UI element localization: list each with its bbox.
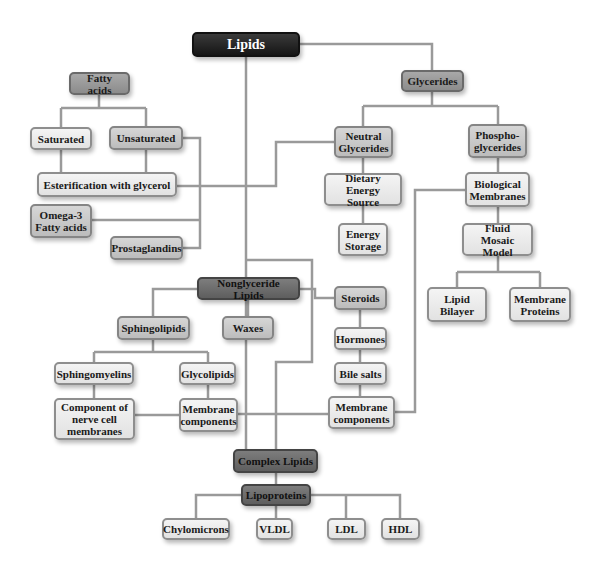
node-omega-3: Omega-3 Fatty acids — [30, 204, 92, 238]
node-saturated: Saturated — [30, 127, 92, 150]
node-hdl: HDL — [381, 518, 420, 540]
node-lipoproteins: Lipoproteins — [241, 484, 311, 506]
node-biological-membranes: Biological Membranes — [465, 172, 530, 207]
node-lipid-bilayer: Lipid Bilayer — [427, 287, 487, 322]
node-steroids: Steroids — [334, 286, 387, 310]
node-vldl: VLDL — [256, 518, 293, 540]
node-glycerides: Glycerides — [401, 70, 464, 92]
node-lipids: Lipids — [192, 32, 300, 57]
node-sphingolipids: Sphingolipids — [117, 316, 190, 340]
node-neutral-glycerides: Neutral Glycerides — [334, 126, 393, 158]
node-glycolipids: Glycolipids — [179, 362, 236, 385]
node-nerve-cell-component: Component of nerve cell membranes — [54, 398, 135, 440]
node-sphingomyelins: Sphingomyelins — [54, 362, 134, 385]
node-membrane-components-left: Membrane components — [179, 398, 238, 432]
node-fatty-acids: Fatty acids — [69, 72, 130, 95]
node-chylomicrons: Chylomicrons — [162, 518, 230, 540]
node-dietary-energy-source: Dietary Energy Source — [324, 173, 402, 206]
node-ldl: LDL — [327, 518, 366, 540]
node-bile-salts: Bile salts — [334, 362, 387, 385]
lipids-concept-map: Lipids Fatty acids Glycerides Saturated … — [0, 0, 603, 566]
node-complex-lipids: Complex Lipids — [233, 449, 318, 473]
node-unsaturated: Unsaturated — [109, 126, 183, 150]
node-fluid-mosaic-model: Fluid Mosaic Model — [462, 223, 533, 256]
node-energy-storage: Energy Storage — [338, 223, 388, 256]
node-prostaglandins: Prostaglandins — [110, 236, 183, 260]
node-nonglyceride-lipids: Nonglyceride Lipids — [197, 277, 300, 300]
node-membrane-components-right: Membrane components — [328, 396, 395, 429]
node-phosphoglycerides: Phospho- glycerides — [468, 124, 527, 158]
node-membrane-proteins: Membrane Proteins — [509, 287, 571, 322]
node-waxes: Waxes — [222, 316, 274, 340]
node-hormones: Hormones — [334, 327, 387, 350]
node-esterification: Esterification with glycerol — [37, 172, 177, 197]
